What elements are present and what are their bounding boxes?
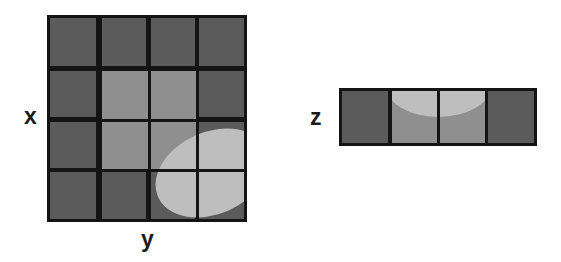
figure-root: x y z bbox=[0, 0, 561, 262]
grid-cell-xy-r3c4 bbox=[198, 120, 244, 168]
grid-cell-z-c2 bbox=[391, 91, 437, 143]
xy-cell-grid bbox=[50, 18, 244, 219]
grid-cell-z-c3 bbox=[440, 91, 486, 143]
grid-cell-xy-r4c1 bbox=[50, 171, 96, 219]
grid-cell-xy-r2c4 bbox=[198, 69, 244, 117]
panel-z-strip bbox=[339, 88, 537, 146]
grid-cell-xy-r3c2 bbox=[99, 120, 145, 168]
panel-xy-grid bbox=[47, 15, 247, 222]
axis-label-z: z bbox=[310, 106, 322, 129]
grid-cell-z-c1 bbox=[342, 91, 388, 143]
axis-label-y: y bbox=[141, 228, 154, 251]
grid-cell-xy-r2c3 bbox=[149, 69, 195, 117]
grid-cell-xy-r2c2 bbox=[99, 69, 145, 117]
grid-cell-xy-r1c4 bbox=[198, 18, 244, 66]
grid-cell-xy-r1c3 bbox=[149, 18, 195, 66]
axis-label-x: x bbox=[24, 105, 37, 128]
grid-cell-xy-r1c1 bbox=[50, 18, 96, 66]
grid-cell-xy-r1c2 bbox=[99, 18, 145, 66]
grid-cell-xy-r4c3 bbox=[149, 171, 195, 219]
grid-cell-xy-r3c3 bbox=[149, 120, 195, 168]
grid-cell-xy-r2c1 bbox=[50, 69, 96, 117]
grid-cell-xy-r4c2 bbox=[99, 171, 145, 219]
grid-cell-xy-r4c4 bbox=[198, 171, 244, 219]
grid-cell-z-c4 bbox=[488, 91, 534, 143]
grid-cell-xy-r3c1 bbox=[50, 120, 96, 168]
z-cell-grid bbox=[342, 91, 534, 143]
